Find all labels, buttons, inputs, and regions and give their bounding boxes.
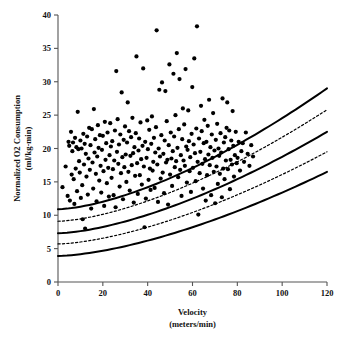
data-point bbox=[220, 195, 224, 199]
data-point bbox=[174, 159, 178, 163]
scatter-points bbox=[60, 24, 255, 230]
data-point bbox=[120, 155, 124, 159]
data-point bbox=[143, 140, 147, 144]
data-point bbox=[130, 163, 134, 167]
data-point bbox=[214, 138, 218, 142]
data-point bbox=[148, 188, 152, 192]
data-point bbox=[155, 28, 159, 32]
data-point bbox=[196, 160, 200, 164]
data-point bbox=[112, 158, 116, 162]
data-point bbox=[100, 148, 104, 152]
data-point bbox=[204, 198, 208, 202]
data-point bbox=[94, 199, 98, 203]
data-point bbox=[82, 162, 86, 166]
data-point bbox=[130, 116, 134, 120]
data-point bbox=[131, 151, 135, 155]
plot-canvas: 0510152025303540020406080100120Velocity(… bbox=[0, 0, 344, 337]
data-point bbox=[187, 139, 191, 143]
data-point bbox=[232, 174, 236, 178]
data-point bbox=[68, 198, 72, 202]
data-point bbox=[226, 147, 230, 151]
data-point bbox=[103, 158, 107, 162]
data-point bbox=[161, 170, 165, 174]
data-point bbox=[229, 138, 233, 142]
band-curve-lower-solid-band bbox=[58, 172, 327, 256]
data-point bbox=[200, 129, 204, 133]
data-point bbox=[104, 141, 108, 145]
data-point bbox=[162, 191, 166, 195]
data-point bbox=[210, 156, 214, 160]
data-point bbox=[165, 158, 169, 162]
data-point bbox=[171, 72, 175, 76]
data-point bbox=[73, 136, 77, 140]
data-point bbox=[64, 164, 68, 168]
y-tick-label: 20 bbox=[43, 144, 52, 154]
data-point bbox=[209, 193, 213, 197]
data-point bbox=[108, 121, 112, 125]
data-point bbox=[90, 127, 94, 131]
data-point bbox=[171, 149, 175, 153]
data-point bbox=[212, 148, 216, 152]
data-point bbox=[146, 178, 150, 182]
data-point bbox=[60, 185, 64, 189]
data-point bbox=[140, 182, 144, 186]
data-point bbox=[122, 165, 126, 169]
data-point bbox=[77, 159, 81, 163]
data-point bbox=[92, 150, 96, 154]
data-point bbox=[94, 172, 98, 176]
data-point bbox=[216, 146, 220, 150]
data-point bbox=[230, 162, 234, 166]
data-point bbox=[72, 202, 76, 206]
y-tick-label: 35 bbox=[43, 43, 52, 53]
x-tick-label: 80 bbox=[233, 288, 242, 298]
data-point bbox=[151, 168, 155, 172]
data-point bbox=[109, 176, 113, 180]
data-point bbox=[165, 119, 169, 123]
data-point bbox=[219, 150, 223, 154]
data-point bbox=[83, 142, 87, 146]
data-point bbox=[206, 152, 210, 156]
data-point bbox=[193, 151, 197, 155]
data-point bbox=[66, 140, 70, 144]
data-point bbox=[227, 128, 231, 132]
data-point bbox=[124, 180, 128, 184]
data-point bbox=[137, 136, 141, 140]
data-point bbox=[74, 166, 78, 170]
data-point bbox=[126, 170, 130, 174]
data-point bbox=[173, 113, 177, 117]
data-point bbox=[181, 106, 185, 110]
data-point bbox=[202, 118, 206, 122]
data-point bbox=[75, 189, 79, 193]
data-point bbox=[205, 173, 209, 177]
data-point bbox=[86, 156, 90, 160]
data-point bbox=[85, 134, 89, 138]
data-point bbox=[69, 130, 73, 134]
data-point bbox=[121, 197, 125, 201]
data-point bbox=[176, 175, 180, 179]
data-point bbox=[194, 126, 198, 130]
data-point bbox=[229, 158, 233, 162]
data-point bbox=[76, 110, 80, 114]
data-point bbox=[210, 132, 214, 136]
data-point bbox=[211, 111, 215, 115]
data-point bbox=[134, 54, 138, 58]
data-point bbox=[175, 51, 179, 55]
data-point bbox=[183, 67, 187, 71]
x-tick-label: 0 bbox=[56, 288, 60, 298]
data-point bbox=[125, 140, 129, 144]
data-point bbox=[141, 66, 145, 70]
data-point bbox=[116, 117, 120, 121]
data-point bbox=[234, 130, 238, 134]
data-point bbox=[157, 88, 161, 92]
data-point bbox=[101, 134, 105, 138]
data-point bbox=[122, 138, 126, 142]
data-point bbox=[136, 192, 140, 196]
data-point bbox=[123, 124, 127, 128]
data-point bbox=[70, 149, 74, 153]
data-point bbox=[190, 85, 194, 89]
data-point bbox=[140, 144, 144, 148]
data-point bbox=[181, 158, 185, 162]
data-point bbox=[207, 98, 211, 102]
data-point bbox=[178, 168, 182, 172]
data-point bbox=[142, 164, 146, 168]
